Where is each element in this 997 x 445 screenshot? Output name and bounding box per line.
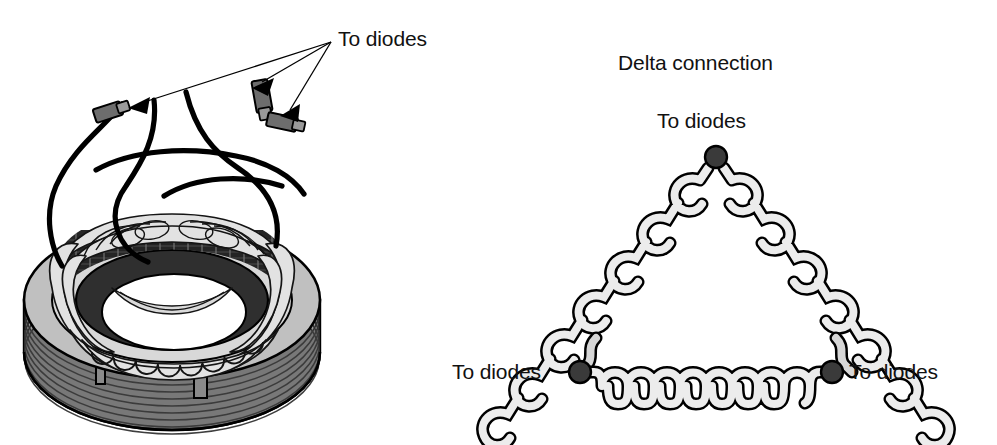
terminal-node-top (705, 146, 727, 168)
delta-connection-title: Delta connection (618, 52, 773, 73)
terminal-node-right (821, 361, 843, 383)
delta-windings (483, 168, 950, 445)
stator-callout-label: To diodes (338, 28, 427, 49)
delta-label-top: To diodes (657, 110, 746, 131)
terminal-node-left (569, 361, 591, 383)
delta-label-right: To diodes (849, 361, 938, 382)
winding-bottom-leg (580, 372, 834, 404)
delta-label-left: To diodes (452, 361, 541, 382)
figure-root: To diodes Delta connection To diodes To … (0, 0, 997, 445)
